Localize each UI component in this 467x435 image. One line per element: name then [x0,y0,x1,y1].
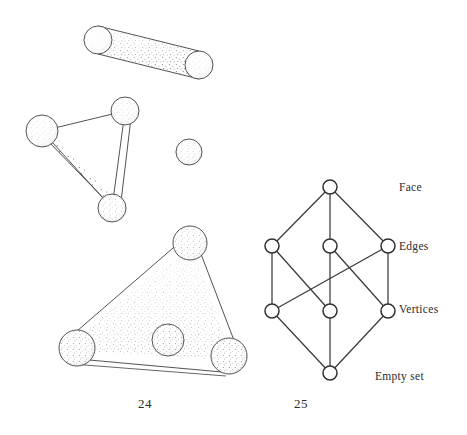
lattice-node-O [323,366,337,380]
lattice-edge-V3-O [330,311,388,373]
lattice-node-V2 [323,304,337,318]
lattice-node-E1 [265,239,279,253]
lattice-level-label-edges: Edges [399,240,429,252]
lattice-node-E2 [323,239,337,253]
lattice-edge-V1-O [272,311,330,373]
lattice-edge-E2-V3 [330,246,388,311]
figure-24-caption: 24 [138,396,152,412]
shape-solid-triangle [59,226,247,376]
lattice-level-label-empty-set: Empty set [375,370,424,382]
lattice-edge-group [272,187,388,373]
lattice-level-label-face: Face [399,181,422,193]
lattice-edge-F-E1 [272,187,330,246]
shape-hollow-triangle [26,97,139,222]
shape-edge-rod [84,26,213,79]
lattice-node-E3 [381,239,395,253]
lattice-node-V1 [265,304,279,318]
lattice-edge-E1-V2 [272,246,330,311]
figure-25-caption: 25 [294,396,308,412]
shape-isolated-vertex-ball [176,139,202,165]
lattice-node-F [323,180,337,194]
lattice-edge-F-E3 [330,187,388,246]
lattice-level-label-vertices: Vertices [399,303,438,315]
lattice-node-V3 [381,304,395,318]
